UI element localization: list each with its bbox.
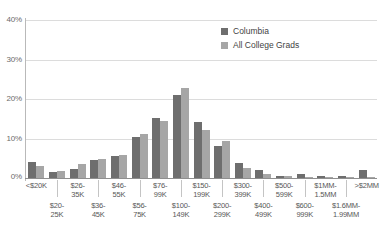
bar-columbia	[173, 95, 181, 178]
x-axis-label: $36-45K	[78, 202, 118, 219]
chart-legend: Columbia All College Grads	[221, 26, 299, 51]
bar-columbia	[132, 137, 140, 178]
bar-series-container	[26, 18, 377, 178]
x-axis-label-line: 299K	[202, 211, 242, 220]
bar-group	[69, 18, 87, 178]
x-axis-label-line: 1.99MM	[326, 211, 366, 220]
bar-group	[193, 18, 211, 178]
x-axis-label-line: 999K	[285, 211, 325, 220]
x-axis-label-line: 75K	[120, 211, 160, 220]
bar-all-college-grads	[325, 177, 333, 178]
bar-columbia	[49, 172, 57, 178]
bar-group	[151, 18, 169, 178]
bar-all-college-grads	[160, 121, 168, 178]
bar-columbia	[70, 169, 78, 178]
y-tick-30: 30%	[0, 55, 22, 64]
x-axis-label: $26-35K	[58, 182, 98, 199]
x-axis-label: $1MM-1.5MM	[305, 182, 345, 199]
x-axis-labels: <$20K$20-25K$26-35K$36-45K$46-55K$56-75K…	[0, 180, 383, 227]
x-axis-label: $300-399K	[223, 182, 263, 199]
bar-all-college-grads	[222, 141, 230, 178]
bar-columbia	[297, 174, 305, 178]
x-axis-label-line: 1.5MM	[305, 191, 345, 200]
bar-all-college-grads	[346, 177, 354, 178]
bar-all-college-grads	[305, 177, 313, 178]
legend-label-columbia: Columbia	[233, 26, 269, 37]
x-axis-label: $46-55K	[99, 182, 139, 199]
bar-all-college-grads	[36, 166, 44, 178]
bar-group	[316, 18, 334, 178]
x-axis-label: $100-149K	[161, 202, 201, 219]
x-axis-label: $400-499K	[243, 202, 283, 219]
bar-columbia	[235, 163, 243, 178]
x-axis-label-line: 499K	[243, 211, 283, 220]
x-axis-label: $150-199K	[182, 182, 222, 199]
bar-all-college-grads	[181, 88, 189, 178]
y-tick-10: 10%	[0, 134, 22, 143]
bar-all-college-grads	[367, 177, 375, 178]
bar-columbia	[90, 160, 98, 178]
x-axis-label-line: <$20K	[16, 182, 56, 191]
x-axis-label-line: 25K	[37, 211, 77, 220]
income-distribution-bar-chart: 40% 30% 20% 10% 0% Columbia All College …	[0, 0, 383, 227]
bar-group	[131, 18, 149, 178]
legend-label-all-college-grads: All College Grads	[233, 40, 299, 51]
bar-columbia	[111, 156, 119, 178]
x-axis-label-line: 599K	[264, 191, 304, 200]
y-tick-40: 40%	[0, 15, 22, 24]
x-axis-label: $500-599K	[264, 182, 304, 199]
bar-all-college-grads	[78, 164, 86, 178]
legend-swatch-all-college-grads	[221, 42, 228, 49]
y-tick-20: 20%	[0, 94, 22, 103]
x-axis-label-line: 399K	[223, 191, 263, 200]
bar-columbia	[317, 176, 325, 178]
legend-swatch-columbia	[221, 28, 228, 35]
x-axis-label: $600-999K	[285, 202, 325, 219]
bar-group	[48, 18, 66, 178]
bar-columbia	[276, 176, 284, 178]
x-axis-label-line: 99K	[140, 191, 180, 200]
bar-columbia	[255, 170, 263, 178]
bar-group	[110, 18, 128, 178]
bar-group	[172, 18, 190, 178]
bar-all-college-grads	[284, 176, 292, 178]
bar-group	[337, 18, 355, 178]
x-axis-label: $200-299K	[202, 202, 242, 219]
x-axis-label-line: 35K	[58, 191, 98, 200]
bar-group	[358, 18, 376, 178]
x-axis-label-line: 45K	[78, 211, 118, 220]
x-axis-label: <$20K	[16, 182, 56, 191]
legend-item-all-college-grads: All College Grads	[221, 40, 299, 51]
bar-group	[89, 18, 107, 178]
x-axis-label-line: 199K	[182, 191, 222, 200]
bar-all-college-grads	[119, 155, 127, 178]
x-axis-label: $1.6MM-1.99MM	[326, 202, 366, 219]
x-axis-label: $56-75K	[120, 202, 160, 219]
bar-all-college-grads	[243, 168, 251, 178]
bar-all-college-grads	[140, 134, 148, 178]
bar-group	[27, 18, 45, 178]
x-axis-label-line: >$2MM	[347, 182, 383, 191]
x-axis-label-line: 149K	[161, 211, 201, 220]
x-axis-label: $76-99K	[140, 182, 180, 199]
bar-all-college-grads	[202, 130, 210, 178]
bar-columbia	[338, 176, 346, 178]
bar-all-college-grads	[57, 171, 65, 178]
x-axis-label: $20-25K	[37, 202, 77, 219]
bar-all-college-grads	[98, 159, 106, 178]
bar-all-college-grads	[263, 174, 271, 178]
legend-item-columbia: Columbia	[221, 26, 299, 37]
x-axis-line	[25, 178, 377, 179]
x-axis-label: >$2MM	[347, 182, 383, 191]
bar-columbia	[214, 146, 222, 178]
bar-columbia	[359, 170, 367, 178]
bar-columbia	[194, 122, 202, 178]
bar-columbia	[28, 162, 36, 178]
bar-columbia	[152, 118, 160, 178]
x-axis-label-line: 55K	[99, 191, 139, 200]
